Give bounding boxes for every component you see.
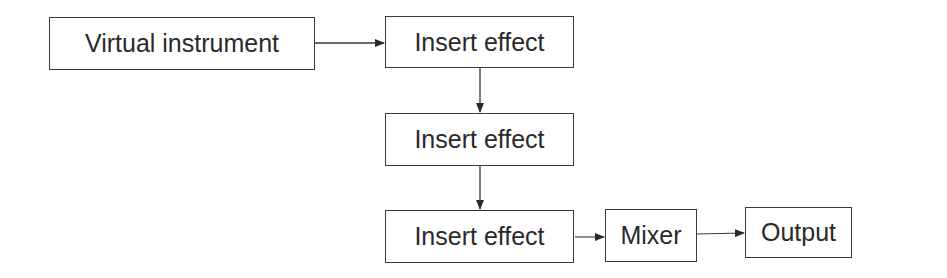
node-label: Insert effect <box>414 224 544 249</box>
node-output: Output <box>745 207 852 258</box>
signal-flow-diagram: Virtual instrument Insert effect Insert … <box>0 0 947 278</box>
node-mixer: Mixer <box>605 209 697 262</box>
node-label: Virtual instrument <box>85 31 279 56</box>
node-label: Insert effect <box>414 127 544 152</box>
edge-mixer-to-output <box>697 233 744 234</box>
node-virtual-instrument: Virtual instrument <box>49 17 315 70</box>
node-insert-effect-3: Insert effect <box>385 210 574 263</box>
node-insert-effect-1: Insert effect <box>385 16 574 68</box>
node-label: Mixer <box>620 223 681 248</box>
node-label: Output <box>761 220 836 245</box>
node-label: Insert effect <box>414 30 544 55</box>
node-insert-effect-2: Insert effect <box>385 113 574 166</box>
